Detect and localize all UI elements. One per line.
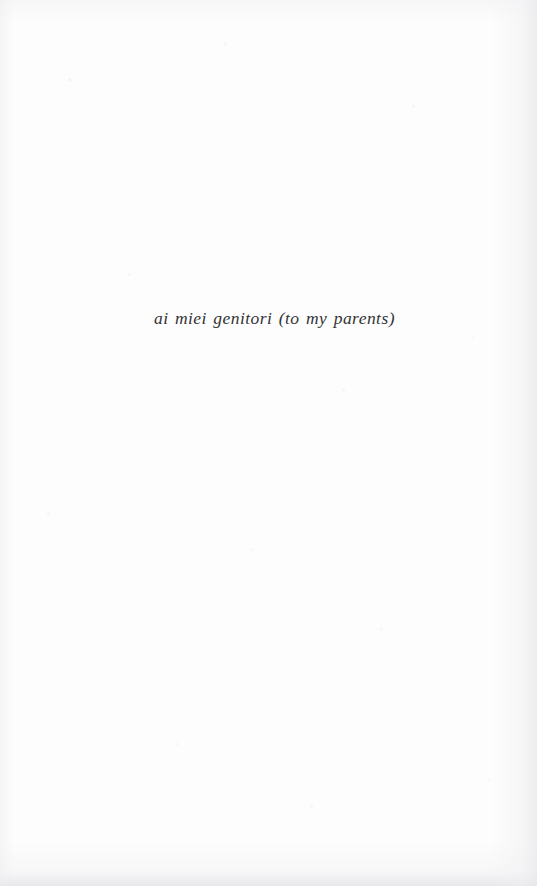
- dedication-text: ai miei genitori (to my parents): [154, 308, 395, 328]
- scan-noise-overlay: [0, 0, 537, 886]
- paper-tone-overlay: [0, 0, 537, 886]
- dedication-block: ai miei genitori (to my parents): [0, 308, 537, 328]
- dedication-page: ai miei genitori (to my parents): [0, 0, 537, 886]
